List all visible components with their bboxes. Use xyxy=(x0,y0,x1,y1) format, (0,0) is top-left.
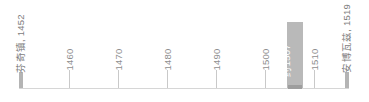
axis-tick-label-1490: 1490 xyxy=(212,48,222,70)
timeline-start-marker[interactable] xyxy=(19,72,23,88)
axis-tick-label-1510: 1510 xyxy=(310,48,320,70)
axis-tick-label-1470: 1470 xyxy=(114,48,124,70)
axis-tick-1500 xyxy=(265,70,266,88)
axis-tick-1510 xyxy=(314,70,315,88)
axis-tick-label-1460: 1460 xyxy=(65,48,75,70)
timeline-start-label: 芬奇镇, 1452 xyxy=(16,14,26,72)
axis-tick-label-1500: 1500 xyxy=(261,48,271,70)
timeline-end-label: 安博瓦兹, 1519 xyxy=(342,4,352,72)
axis-tick-1460 xyxy=(69,70,70,88)
timeline-highlight-label: 约1507 xyxy=(282,44,292,76)
timeline-highlight-marker xyxy=(288,85,302,89)
axis-tick-1470 xyxy=(118,70,119,88)
timeline-chart: 1460 1470 1480 1490 1500 1510 芬奇镇, 1452 … xyxy=(0,0,369,102)
axis-tick-1480 xyxy=(167,70,168,88)
axis-tick-1490 xyxy=(216,70,217,88)
timeline-end-marker[interactable] xyxy=(345,72,349,88)
axis-tick-label-1480: 1480 xyxy=(163,48,173,70)
